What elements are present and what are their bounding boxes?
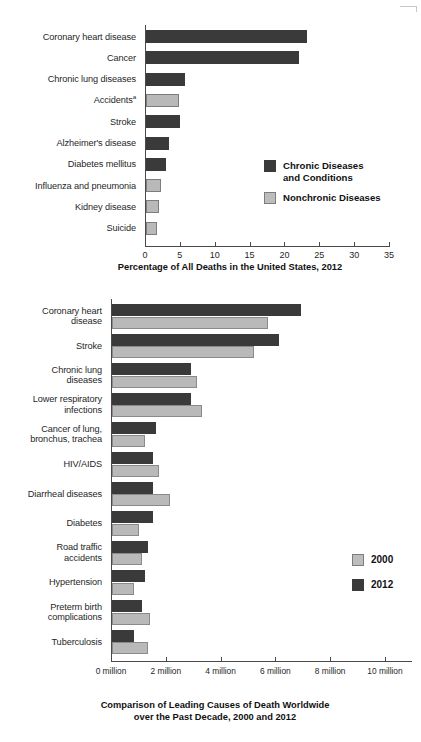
chart1-xtick-4 [284, 242, 285, 246]
figure-page: Coronary heart diseaseCancerChronic lung… [0, 0, 421, 742]
legend-swatch-nonchronic [264, 192, 276, 204]
plot-area-chart1: Coronary heart diseaseCancerChronic lung… [0, 0, 421, 280]
bar-chart2-2000-3 [112, 405, 202, 417]
chart1-xtick-2 [215, 242, 216, 246]
legend-item-nonchronic: Nonchronic Diseases [264, 192, 381, 204]
bar-chart2-2000-10 [112, 613, 150, 625]
chart1-category-label-7: Influenza and pneumonia [0, 181, 136, 192]
bar-chart1-5 [146, 137, 169, 150]
chart2-category-label-7: Diabetes [0, 518, 102, 529]
chart1-xtick-label-2: 10 [201, 250, 229, 260]
chart2-category-label-5: HIV/AIDS [0, 459, 102, 470]
chart2-xtick-5 [385, 657, 386, 661]
chart1-xtick-label-7: 35 [375, 250, 403, 260]
bar-chart2-2012-1 [112, 334, 279, 346]
bar-chart2-2012-6 [112, 482, 153, 494]
legend-label-y2000: 2000 [371, 554, 393, 566]
chart2-xtick-3 [275, 657, 276, 661]
legend-swatch-y2000 [352, 554, 364, 566]
bar-chart2-2000-1 [112, 346, 254, 358]
chart2-category-label-8: Road trafficaccidents [0, 542, 102, 563]
bar-chart2-2012-8 [112, 541, 148, 553]
bar-chart2-2012-4 [112, 422, 156, 434]
chart2-xtick-label-5: 10 million [355, 666, 415, 676]
chart2-xtick-label-1: 2 million [136, 666, 196, 676]
chart2-category-label-2: Chronic lungdiseases [0, 365, 102, 386]
legend-label-y2012: 2012 [371, 579, 393, 591]
bar-chart2-2000-11 [112, 642, 148, 654]
chart-worldwide-deaths: Coronary heartdiseaseStrokeChronic lungd… [0, 290, 421, 742]
bar-chart2-2000-8 [112, 553, 142, 565]
bar-chart2-2000-9 [112, 583, 134, 595]
chart2-xtick-2 [221, 657, 222, 661]
chart1-xtick-7 [389, 242, 390, 246]
chart1-xtick-label-0: 0 [131, 250, 159, 260]
chart1-category-label-4: Stroke [0, 117, 136, 128]
legend-chart2: 20002012 [352, 554, 393, 604]
chart1-category-label-6: Diabetes mellitus [0, 159, 136, 170]
bar-chart2-2012-11 [112, 630, 134, 642]
chart2-category-label-3: Lower respiratoryinfections [0, 394, 102, 415]
chart1-category-label-9: Suicide [0, 223, 136, 234]
chart2-category-label-1: Stroke [0, 341, 102, 352]
bar-chart1-4 [146, 115, 180, 128]
bar-chart2-2000-6 [112, 494, 170, 506]
chart2-category-label-4: Cancer of lung,bronchus, trachea [0, 424, 102, 445]
bar-chart1-2 [146, 73, 185, 86]
bar-chart2-2000-7 [112, 524, 139, 536]
legend-item-chronic: Chronic Diseases and Conditions [264, 160, 381, 183]
chart1-x-axis [145, 246, 390, 247]
chart1-xtick-6 [354, 242, 355, 246]
legend-swatch-chronic [264, 160, 276, 172]
chart2-xtick-4 [330, 657, 331, 661]
bar-chart1-1 [146, 51, 299, 64]
legend-item-y2012: 2012 [352, 579, 393, 591]
chart2-category-label-10: Preterm birthcomplications [0, 602, 102, 623]
legend-chart1: Chronic Diseases and ConditionsNonchroni… [264, 160, 381, 213]
chart1-xtick-label-4: 20 [270, 250, 298, 260]
chart1-category-label-2: Chronic lung diseases [0, 74, 136, 85]
chart2-x-axis [111, 661, 412, 662]
chart2-caption-line1: Comparison of Leading Causes of Death Wo… [101, 700, 330, 710]
bar-chart1-6 [146, 158, 166, 171]
legend-swatch-y2012 [352, 579, 364, 591]
chart1-xtick-0 [145, 242, 146, 246]
legend-label-nonchronic: Nonchronic Diseases [283, 192, 381, 204]
bar-chart2-2012-3 [112, 393, 191, 405]
chart2-xtick-1 [166, 657, 167, 661]
legend-label-chronic: Chronic Diseases and Conditions [283, 160, 364, 183]
chart2-category-label-11: Tuberculosis [0, 637, 102, 648]
chart2-caption-line2: over the Past Decade, 2000 and 2012 [134, 712, 296, 722]
bar-chart2-2012-5 [112, 452, 153, 464]
footnote-marker: a [133, 93, 136, 100]
chart1-xtick-3 [250, 242, 251, 246]
chart1-xtick-label-3: 15 [236, 250, 264, 260]
chart1-category-label-3: Accidentsa [0, 95, 136, 106]
chart1-category-label-8: Kidney disease [0, 202, 136, 213]
bar-chart2-2012-10 [112, 600, 142, 612]
chart2-category-label-0: Coronary heartdisease [0, 306, 102, 327]
legend-item-y2000: 2000 [352, 554, 393, 566]
bar-chart1-0 [146, 30, 307, 43]
chart1-xtick-label-1: 5 [166, 250, 194, 260]
chart2-xtick-label-2: 4 million [191, 666, 251, 676]
chart2-category-label-9: Hypertension [0, 577, 102, 588]
chart2-category-label-6: Diarrheal diseases [0, 489, 102, 500]
bar-chart2-2012-2 [112, 363, 191, 375]
bar-chart1-3 [146, 94, 179, 107]
chart-us-deaths-2012: Coronary heart diseaseCancerChronic lung… [0, 0, 421, 280]
chart1-xtick-label-5: 25 [305, 250, 333, 260]
bar-chart2-2012-0 [112, 304, 301, 316]
chart1-xtick-1 [180, 242, 181, 246]
chart2-xtick-label-3: 6 million [245, 666, 305, 676]
chart1-xtick-5 [319, 242, 320, 246]
chart1-x-axis-title: Percentage of All Deaths in the United S… [60, 262, 400, 274]
chart1-category-label-5: Alzheimer's disease [0, 138, 136, 149]
bar-chart2-2000-0 [112, 317, 268, 329]
chart1-xtick-label-6: 30 [340, 250, 368, 260]
chart2-x-axis-title: Comparison of Leading Causes of Death Wo… [55, 700, 375, 723]
bar-chart2-2000-4 [112, 435, 145, 447]
bar-chart1-9 [146, 222, 157, 235]
chart2-xtick-0 [111, 657, 112, 661]
bar-chart1-8 [146, 200, 159, 213]
